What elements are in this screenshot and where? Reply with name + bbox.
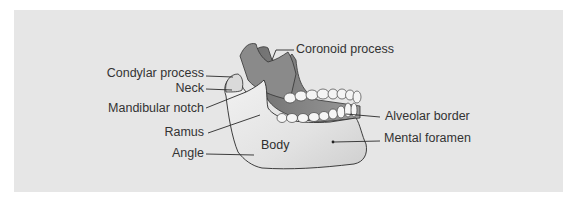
mental-foramen-dot	[332, 141, 335, 144]
label-neck: Neck	[96, 81, 204, 95]
mandible-diagram	[0, 0, 576, 204]
label-ramus: Ramus	[96, 125, 204, 139]
label-mandibular-notch: Mandibular notch	[96, 101, 204, 115]
label-body: Body	[261, 138, 290, 152]
label-condylar-process: Condylar process	[96, 66, 204, 80]
label-mental-foramen: Mental foramen	[384, 131, 471, 145]
label-angle: Angle	[96, 146, 204, 160]
label-alveolar-border: Alveolar border	[385, 109, 470, 123]
label-coronoid-process: Coronoid process	[296, 42, 394, 56]
